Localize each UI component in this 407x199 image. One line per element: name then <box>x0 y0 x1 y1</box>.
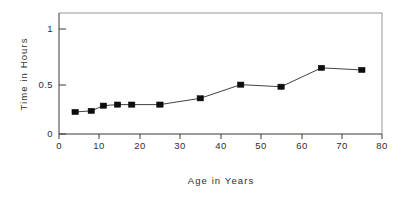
data-point-marker <box>72 109 78 114</box>
x-tick-label-20: 20 <box>134 140 145 151</box>
y-tick-label-0-5: 0.5 <box>39 79 53 90</box>
x-tick-label-10: 10 <box>93 140 104 151</box>
data-point-marker <box>359 67 365 72</box>
data-point-marker <box>197 96 203 101</box>
y-axis-tick-labels: 1 0.5 0 <box>39 23 53 139</box>
data-point-marker <box>128 102 134 107</box>
x-tick-label-80: 80 <box>376 140 387 151</box>
data-point-marker <box>114 102 120 107</box>
line-chart-canvas: 1 0.5 0 0 10 20 30 40 50 60 70 80 Age in… <box>0 0 407 199</box>
x-axis-title: Age in Years <box>188 175 255 186</box>
x-axis-tick-labels: 0 10 20 30 40 50 60 70 80 <box>56 140 388 151</box>
x-axis-ticks <box>59 134 382 139</box>
plot-frame <box>59 13 382 134</box>
data-point-marker <box>278 84 284 89</box>
y-tick-label-1: 1 <box>47 23 53 34</box>
data-point-marker <box>237 82 243 87</box>
y-axis-title: Time in Hours <box>18 37 29 110</box>
x-tick-label-40: 40 <box>215 140 226 151</box>
x-tick-label-60: 60 <box>296 140 307 151</box>
y-tick-label-0: 0 <box>47 128 53 139</box>
data-point-marker <box>318 65 324 70</box>
x-tick-label-70: 70 <box>336 140 347 151</box>
data-series <box>72 65 365 114</box>
x-tick-label-50: 50 <box>255 140 266 151</box>
data-point-marker <box>100 103 106 108</box>
data-point-marker <box>157 102 163 107</box>
x-tick-label-0: 0 <box>56 140 62 151</box>
axes <box>59 13 382 134</box>
data-point-marker <box>88 108 94 113</box>
x-tick-label-30: 30 <box>174 140 185 151</box>
series-markers <box>72 65 365 114</box>
y-axis-ticks <box>59 29 66 134</box>
chart-figure: 1 0.5 0 0 10 20 30 40 50 60 70 80 Age in… <box>0 0 407 199</box>
